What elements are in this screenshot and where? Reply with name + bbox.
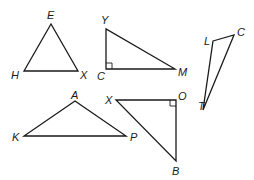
vertex-label: H [11,69,19,81]
vertex-label: X [79,69,88,81]
triangle-lct: LCT [198,26,245,112]
triangle-outline [106,29,175,69]
triangles-diagram: EHXYCMLCTAKPXOB [0,0,254,180]
vertex-label: X [104,94,113,106]
vertex-label: B [172,165,179,177]
vertex-label: C [97,70,105,82]
vertex-label: K [12,131,20,143]
vertex-label: E [47,9,55,21]
vertex-label: M [178,66,188,78]
vertex-label: O [178,90,187,102]
triangle-outline [24,24,78,71]
triangle-xob: XOB [104,90,187,177]
right-angle-marker [106,63,112,69]
right-angle-marker [170,100,176,106]
vertex-label: A [70,89,78,101]
triangle-akp: AKP [12,89,138,143]
triangle-ycm: YCM [97,14,188,82]
triangle-outline [116,100,176,161]
vertex-label: P [130,131,138,143]
triangle-outline [24,101,126,136]
vertex-label: L [204,35,210,47]
triangle-ehx: EHX [11,9,88,81]
vertex-label: Y [101,14,109,26]
vertex-label: C [237,26,245,38]
